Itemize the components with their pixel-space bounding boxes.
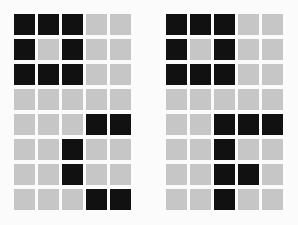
empty-cell <box>166 114 187 135</box>
filled-cell <box>214 64 235 85</box>
empty-cell <box>62 89 83 110</box>
filled-cell <box>214 139 235 160</box>
empty-cell <box>262 64 283 85</box>
empty-cell <box>190 114 211 135</box>
empty-cell <box>110 89 131 110</box>
filled-cell <box>14 14 35 35</box>
filled-cell <box>38 14 59 35</box>
filled-cell <box>38 64 59 85</box>
filled-cell <box>110 189 131 210</box>
empty-cell <box>238 39 259 60</box>
empty-cell <box>38 114 59 135</box>
empty-cell <box>190 89 211 110</box>
empty-cell <box>110 39 131 60</box>
empty-cell <box>110 14 131 35</box>
empty-cell <box>190 39 211 60</box>
filled-cell <box>62 14 83 35</box>
empty-cell <box>110 64 131 85</box>
empty-cell <box>238 139 259 160</box>
empty-cell <box>62 189 83 210</box>
empty-cell <box>190 139 211 160</box>
filled-cell <box>166 14 187 35</box>
filled-cell <box>190 64 211 85</box>
empty-cell <box>166 139 187 160</box>
filled-cell <box>110 114 131 135</box>
filled-cell <box>86 189 107 210</box>
empty-cell <box>38 39 59 60</box>
filled-cell <box>62 139 83 160</box>
empty-cell <box>166 189 187 210</box>
filled-cell <box>262 114 283 135</box>
empty-cell <box>14 139 35 160</box>
empty-cell <box>14 89 35 110</box>
empty-cell <box>86 89 107 110</box>
filled-cell <box>62 164 83 185</box>
empty-cell <box>262 39 283 60</box>
empty-cell <box>38 164 59 185</box>
filled-cell <box>214 39 235 60</box>
empty-cell <box>110 164 131 185</box>
empty-cell <box>14 164 35 185</box>
empty-cell <box>238 14 259 35</box>
empty-cell <box>262 139 283 160</box>
filled-cell <box>238 114 259 135</box>
filled-cell <box>214 114 235 135</box>
empty-cell <box>14 114 35 135</box>
empty-cell <box>86 164 107 185</box>
empty-cell <box>262 14 283 35</box>
empty-cell <box>238 64 259 85</box>
empty-cell <box>262 189 283 210</box>
empty-cell <box>38 89 59 110</box>
filled-cell <box>14 64 35 85</box>
filled-cell <box>166 39 187 60</box>
filled-cell <box>214 14 235 35</box>
empty-cell <box>190 164 211 185</box>
empty-cell <box>110 139 131 160</box>
filled-cell <box>238 164 259 185</box>
empty-cell <box>86 139 107 160</box>
empty-cell <box>14 189 35 210</box>
filled-cell <box>62 64 83 85</box>
empty-cell <box>62 114 83 135</box>
empty-cell <box>166 89 187 110</box>
empty-cell <box>262 164 283 185</box>
pixel-grid-left <box>14 14 131 210</box>
empty-cell <box>238 189 259 210</box>
filled-cell <box>86 114 107 135</box>
filled-cell <box>190 14 211 35</box>
empty-cell <box>86 64 107 85</box>
empty-cell <box>262 89 283 110</box>
empty-cell <box>38 139 59 160</box>
empty-cell <box>38 189 59 210</box>
empty-cell <box>86 14 107 35</box>
filled-cell <box>214 189 235 210</box>
filled-cell <box>166 64 187 85</box>
filled-cell <box>14 39 35 60</box>
empty-cell <box>238 89 259 110</box>
empty-cell <box>214 89 235 110</box>
filled-cell <box>62 39 83 60</box>
empty-cell <box>190 189 211 210</box>
empty-cell <box>86 39 107 60</box>
pixel-grid-right <box>166 14 283 210</box>
empty-cell <box>166 164 187 185</box>
filled-cell <box>214 164 235 185</box>
